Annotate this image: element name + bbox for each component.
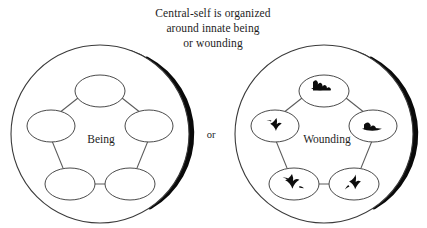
caption-line-2: around innate being [166,22,259,35]
wounding-node-top [299,75,349,107]
caption-line-1: Central-self is organized [155,7,270,20]
wounding-diagram: Wounding [235,45,415,223]
being-node-lower-right [105,168,155,200]
figure-container: Central-self is organized around innate … [0,0,427,228]
being-node-upper-left [27,110,75,142]
being-diagram: Being [11,45,191,223]
being-center-label: Being [87,133,115,146]
being-node-upper-right [125,110,173,142]
conjunction-label: or [207,129,216,140]
figure-caption: Central-self is organized around innate … [155,7,270,50]
being-node-top [75,75,125,107]
being-node-lower-left [45,168,95,200]
caption-line-3: or wounding [183,37,243,50]
diagram-canvas: Central-self is organized around innate … [0,0,427,228]
wounding-center-label: Wounding [303,133,351,146]
